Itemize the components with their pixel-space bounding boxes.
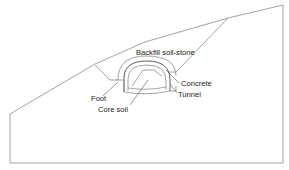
label-tunnel: Tunnel [178, 90, 201, 99]
foot-left [116, 80, 124, 92]
core-soil-outline [132, 70, 162, 86]
label-core-soil: Core soil [98, 105, 128, 114]
backfill-left-boundary [95, 65, 118, 80]
tunnel-invert [124, 91, 170, 94]
tunnel-invert-inner [128, 87, 166, 89]
tunnel-lining [128, 65, 166, 91]
label-backfill: Backfill soil-stone [136, 48, 195, 57]
slope-boundary [10, 5, 283, 163]
label-foot: Foot [91, 94, 107, 103]
label-concrete: Concrete [181, 79, 212, 88]
tunnel-diagram: Backfill soil-stone Concrete Tunnel Foot… [0, 0, 289, 170]
backfill-right-boundary [168, 18, 228, 72]
leader-core-soil [130, 80, 148, 105]
